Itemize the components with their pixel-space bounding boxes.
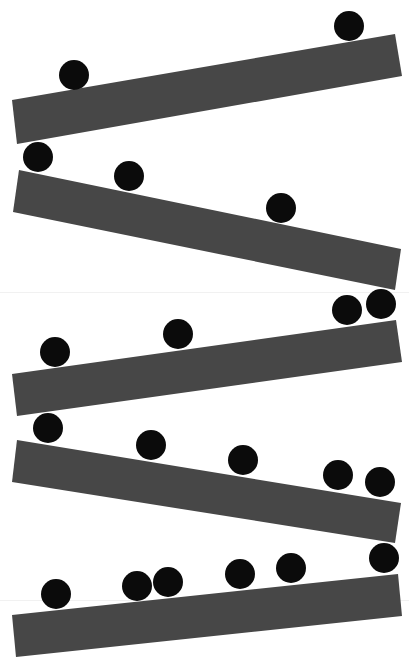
ramp-platform [12,440,401,543]
ball [59,60,89,90]
ball [33,413,63,443]
ramps-layer [12,34,402,657]
ball [334,11,364,41]
ball [266,193,296,223]
ball [332,295,362,325]
ball [365,467,395,497]
ramp-platform [12,574,402,657]
ball [23,142,53,172]
ball [136,430,166,460]
ball [40,337,70,367]
ball [369,543,399,573]
ball [41,579,71,609]
ramp-platform [12,320,402,416]
ball [163,319,193,349]
ball [225,559,255,589]
ball [153,567,183,597]
ball [122,571,152,601]
ball [366,289,396,319]
ball [114,161,144,191]
ball [228,445,258,475]
ramp-platform [13,170,401,290]
ball [323,460,353,490]
ball [276,553,306,583]
physics-scene [0,0,409,668]
